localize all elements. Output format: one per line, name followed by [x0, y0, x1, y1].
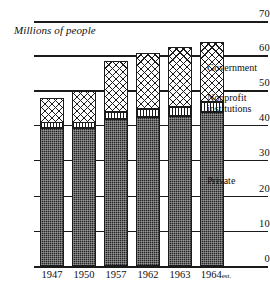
x-tick-year-1947: 1947	[42, 269, 63, 280]
bar-1957-government	[104, 61, 128, 112]
x-tick-year-1950: 1950	[74, 269, 95, 280]
legend-label-government: Government	[207, 63, 257, 74]
legend-label-nonprofit-line1: Nonprofit	[207, 93, 251, 104]
bar-1947-private	[40, 128, 64, 266]
x-tick-year-1957: 1957	[106, 269, 127, 280]
x-tick-year-1964: 1964	[201, 269, 222, 280]
bar-1950-private	[72, 128, 96, 266]
bar-1963-nonprofit	[168, 107, 192, 116]
bar-1964-private	[200, 112, 224, 266]
bar-1963-private	[168, 116, 192, 267]
x-tick-est-suffix: est.	[222, 272, 232, 280]
x-tick-label-1964-est: 1964est.	[188, 269, 244, 282]
bar-1947-government	[40, 98, 64, 123]
bar-1963-government	[168, 47, 192, 107]
bar-1962-private	[136, 117, 160, 266]
stacked-bar-chart: 70 60 50 40 30 20 10 0 Millions of peopl…	[0, 0, 270, 289]
legend-label-nonprofit-line2: institutions	[207, 104, 251, 115]
bar-1957-private	[104, 119, 128, 266]
bar-1962-nonprofit	[136, 109, 160, 118]
bar-1962-government	[136, 53, 160, 109]
legend-label-nonprofit: Nonprofit institutions	[207, 93, 251, 114]
bar-1957-nonprofit	[104, 112, 128, 119]
legend-label-private: Private	[207, 176, 235, 187]
x-tick-year-1962: 1962	[138, 269, 159, 280]
bar-1950-government	[72, 91, 96, 123]
plot-area	[0, 0, 270, 289]
